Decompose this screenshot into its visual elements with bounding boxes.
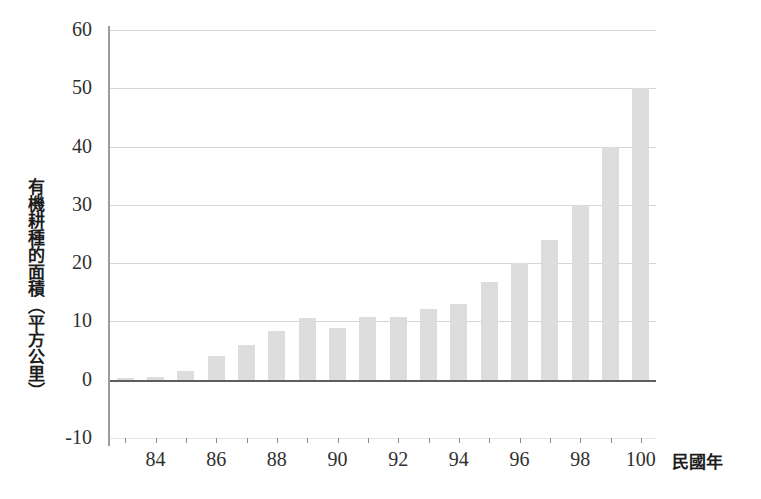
chart-figure: 有機耕種的面積（平方公里） -100102030405060 848688909… (0, 0, 761, 499)
x-tick (641, 438, 642, 443)
zero-baseline (110, 380, 656, 382)
x-tick-label: 100 (626, 448, 656, 471)
bar (177, 371, 194, 380)
bar (450, 304, 467, 380)
y-tick-label: 50 (46, 77, 92, 97)
x-tick (277, 438, 278, 443)
x-tick (247, 438, 248, 443)
x-tick (125, 438, 126, 443)
bar (147, 377, 164, 379)
x-tick (429, 438, 430, 443)
x-tick (186, 438, 187, 443)
x-tick (459, 438, 460, 443)
x-tick-label: 98 (570, 448, 590, 471)
y-tick-label: 0 (46, 369, 92, 389)
bar (481, 282, 498, 380)
x-tick-label: 90 (328, 448, 348, 471)
bar (268, 331, 285, 379)
y-tick-label: 40 (46, 136, 92, 156)
bar (541, 240, 558, 380)
bar (299, 318, 316, 380)
y-tick-label: 30 (46, 194, 92, 214)
x-tick (156, 438, 157, 443)
x-axis-ticks (110, 438, 656, 444)
bar (572, 205, 589, 380)
bar (329, 328, 346, 379)
x-tick (307, 438, 308, 443)
x-tick-label: 92 (388, 448, 408, 471)
x-tick (611, 438, 612, 443)
gridline (110, 147, 656, 148)
x-tick-label: 88 (267, 448, 287, 471)
x-tick (216, 438, 217, 443)
x-tick (368, 438, 369, 443)
bar (511, 263, 528, 380)
x-tick (550, 438, 551, 443)
x-axis-tick-labels: 8486889092949698100 (110, 448, 656, 478)
y-tick-label: 20 (46, 252, 92, 272)
gridline (110, 88, 656, 89)
x-tick (489, 438, 490, 443)
y-tick-label: 60 (46, 19, 92, 39)
bar (238, 345, 255, 380)
x-tick (520, 438, 521, 443)
x-tick-label: 96 (510, 448, 530, 471)
x-tick-label: 94 (449, 448, 469, 471)
bar (208, 356, 225, 379)
x-axis-title: 民國年 (672, 448, 723, 473)
bar (359, 317, 376, 379)
bar (632, 88, 649, 379)
x-tick (338, 438, 339, 443)
bar (602, 147, 619, 380)
y-tick-label: -10 (46, 427, 92, 447)
bar (390, 317, 407, 379)
gridline (110, 30, 656, 31)
x-tick-label: 84 (146, 448, 166, 471)
y-tick-label: 10 (46, 310, 92, 330)
y-axis-tick-labels: -100102030405060 (44, 0, 92, 499)
bar (420, 309, 437, 380)
x-tick (398, 438, 399, 443)
plot-area (110, 30, 656, 438)
y-axis-title: 有機耕種的面積（平方公里） (14, 168, 44, 408)
x-tick (580, 438, 581, 443)
x-tick-label: 86 (206, 448, 226, 471)
bar (117, 378, 134, 380)
